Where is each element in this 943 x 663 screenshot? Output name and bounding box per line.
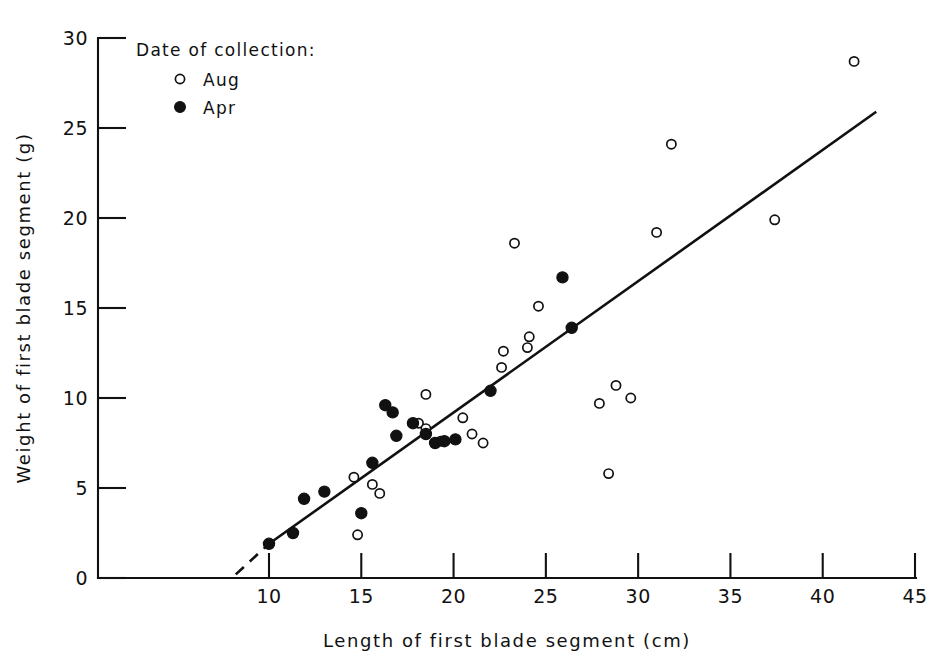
y-tick-label-5: 5 (75, 477, 88, 499)
legend-title: Date of collection: (136, 40, 316, 60)
regression-line-dashed-extension (236, 544, 269, 575)
data-point-aug-22 (667, 140, 676, 149)
data-point-apr-14 (485, 385, 496, 396)
x-axis-title: Length of first blade segment (cm) (323, 630, 691, 651)
data-point-aug-24 (849, 57, 858, 66)
axes-frame (98, 38, 916, 578)
data-point-aug-21 (652, 228, 661, 237)
data-point-apr-3 (319, 486, 330, 497)
x-tick-label-35: 35 (718, 585, 743, 607)
y-tick-label-15: 15 (63, 297, 88, 319)
legend-label-aug: Aug (203, 70, 240, 90)
x-axis-tick-labels: 1015202530354045 (256, 585, 927, 607)
data-point-apr-0 (263, 538, 274, 549)
y-tick-label-10: 10 (63, 387, 88, 409)
x-tick-label-20: 20 (441, 585, 466, 607)
x-tick-label-10: 10 (256, 585, 281, 607)
data-point-apr-1 (287, 527, 298, 538)
y-axis-ticks (98, 38, 126, 578)
y-axis-title: Weight of first blade segment (g) (13, 132, 34, 483)
data-points-aug (349, 57, 858, 540)
data-point-apr-4 (356, 508, 367, 519)
legend-marker-apr (175, 102, 186, 113)
data-points-apr (263, 272, 577, 550)
data-point-aug-6 (421, 390, 430, 399)
data-point-aug-10 (479, 438, 488, 447)
data-point-apr-5 (367, 457, 378, 468)
data-point-apr-12 (439, 436, 450, 447)
x-tick-label-25: 25 (533, 585, 558, 607)
data-point-apr-15 (557, 272, 568, 283)
data-point-aug-20 (626, 393, 635, 402)
y-tick-label-25: 25 (63, 117, 88, 139)
data-point-aug-11 (497, 363, 506, 372)
scatter-plot-figure: 051015202530 1015202530354045 Date of co… (0, 0, 943, 663)
x-tick-label-15: 15 (349, 585, 374, 607)
plot-canvas: 051015202530 1015202530354045 Date of co… (0, 0, 943, 663)
y-tick-label-20: 20 (63, 207, 88, 229)
x-axis-ticks (269, 553, 915, 578)
data-point-apr-8 (391, 430, 402, 441)
data-point-apr-16 (566, 322, 577, 333)
y-axis-tick-labels: 051015202530 (63, 27, 88, 589)
x-tick-label-40: 40 (810, 585, 835, 607)
legend: Date of collection: Aug Apr (136, 40, 316, 118)
data-point-aug-12 (499, 347, 508, 356)
data-point-aug-8 (458, 413, 467, 422)
x-tick-label-30: 30 (626, 585, 651, 607)
data-point-aug-13 (510, 239, 519, 248)
data-point-aug-3 (375, 489, 384, 498)
data-point-aug-17 (595, 399, 604, 408)
data-point-aug-18 (604, 469, 613, 478)
data-point-aug-1 (353, 530, 362, 539)
data-point-aug-16 (534, 302, 543, 311)
data-point-aug-2 (368, 480, 377, 489)
data-point-apr-9 (407, 418, 418, 429)
legend-label-apr: Apr (203, 98, 236, 118)
data-point-aug-23 (770, 215, 779, 224)
data-point-aug-0 (349, 473, 358, 482)
data-point-apr-10 (420, 428, 431, 439)
data-point-aug-14 (523, 343, 532, 352)
legend-marker-aug (175, 74, 184, 83)
data-point-apr-2 (298, 493, 309, 504)
y-tick-label-0: 0 (75, 567, 88, 589)
x-tick-label-45: 45 (902, 585, 927, 607)
data-point-apr-13 (450, 434, 461, 445)
data-point-apr-7 (387, 407, 398, 418)
data-point-aug-9 (467, 429, 476, 438)
data-point-aug-15 (525, 332, 534, 341)
y-tick-label-30: 30 (63, 27, 88, 49)
regression-line-group (236, 112, 876, 575)
data-point-aug-19 (611, 381, 620, 390)
